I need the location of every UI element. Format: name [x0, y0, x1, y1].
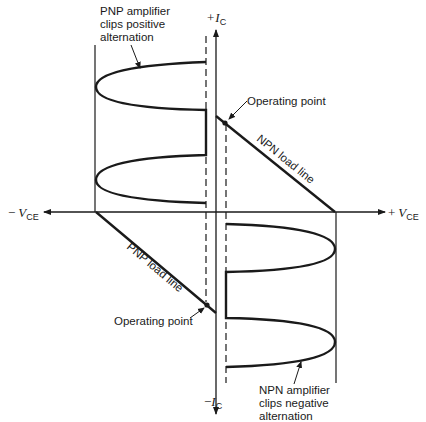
pnp-operating-point-annotation: Operating point [114, 308, 204, 327]
svg-text:alternation: alternation [100, 31, 154, 43]
svg-text:clips positive: clips positive [100, 18, 165, 30]
svg-text:PNP amplifier: PNP amplifier [100, 5, 170, 17]
pnp-load-line-label: PNP load line [125, 240, 186, 294]
npn-operating-point-annotation: Operating point [229, 95, 326, 119]
npn-load-line-label: NPN load line [255, 132, 317, 186]
pnp-clipped-waveform [96, 62, 206, 203]
positive-ic-label: +IC [207, 10, 227, 27]
diagram-canvas: +IC −IC +VCE −VCE PNP amplifier clips po… [0, 0, 426, 422]
svg-text:alternation: alternation [259, 410, 313, 422]
svg-text:Operating point: Operating point [247, 95, 326, 107]
npn-clip-annotation: NPN amplifier clips negative alternation [259, 362, 330, 422]
npn-clipped-waveform [226, 224, 335, 367]
npn-operating-point-dot [222, 120, 227, 125]
pnp-operating-point-dot [204, 302, 209, 307]
npn-load-line [216, 116, 335, 212]
negative-vce-label: −VCE [8, 205, 39, 222]
svg-text:NPN amplifier: NPN amplifier [259, 384, 330, 396]
positive-vce-label: +VCE [388, 205, 419, 222]
svg-text:Operating point: Operating point [114, 315, 193, 327]
negative-ic-label: −IC [204, 394, 223, 411]
svg-text:clips negative: clips negative [259, 397, 329, 409]
pnp-clip-annotation: PNP amplifier clips positive alternation [100, 5, 170, 68]
